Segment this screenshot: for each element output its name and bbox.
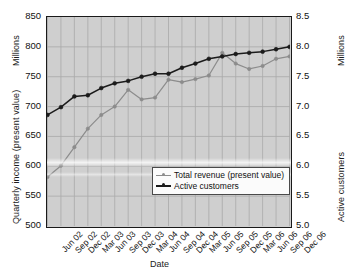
legend-swatch-total-revenue (156, 171, 171, 180)
right-tick-6.5: 6.5 (296, 129, 326, 140)
legend-label-total-revenue: Total revenue (present value) (174, 170, 284, 181)
plot-area (46, 16, 292, 228)
right-axis-units: Millions (336, 35, 346, 66)
right-tick-7.5: 7.5 (296, 70, 326, 81)
left-tick-800: 800 (13, 40, 41, 51)
right-tick-5.0: 5.0 (296, 219, 326, 230)
right-tick-7.0: 7.0 (296, 100, 326, 111)
left-tick-850: 850 (13, 10, 41, 21)
legend-label-active-customers: Active customers (174, 181, 239, 192)
right-tick-5.5: 5.5 (296, 189, 326, 200)
left-tick-650: 650 (13, 129, 41, 140)
right-axis-title: Active customers (336, 152, 346, 222)
left-tick-750: 750 (13, 70, 41, 81)
left-tick-550: 550 (13, 189, 41, 200)
legend-swatch-active-customers (156, 181, 171, 190)
right-tick-8.5: 8.5 (296, 10, 326, 21)
left-tick-500: 500 (13, 219, 41, 230)
left-tick-600: 600 (13, 159, 41, 170)
legend-item-active-customers: Active customers (156, 181, 284, 192)
left-tick-700: 700 (13, 100, 41, 111)
legend-item-total-revenue: Total revenue (present value) (156, 170, 284, 181)
x-axis-title: Date (150, 259, 169, 269)
legend: Total revenue (present value) Active cus… (152, 167, 290, 195)
right-tick-8.0: 8.0 (296, 40, 326, 51)
right-tick-6.0: 6.0 (296, 159, 326, 170)
